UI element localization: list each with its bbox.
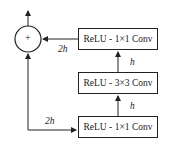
top-conv-block: ReLU - 1×1 Conv	[78, 28, 158, 50]
input-label: 2h	[45, 116, 55, 126]
bottom-conv-block: ReLU - 1×1 Conv	[78, 116, 158, 138]
plus-symbol: +	[25, 32, 31, 43]
bottom-to-middle-label: h	[130, 101, 135, 111]
middle-to-top-label: h	[130, 57, 135, 67]
top-to-sum-label: 2h	[58, 44, 68, 54]
middle-conv-block: ReLU - 3×3 Conv	[78, 72, 158, 94]
